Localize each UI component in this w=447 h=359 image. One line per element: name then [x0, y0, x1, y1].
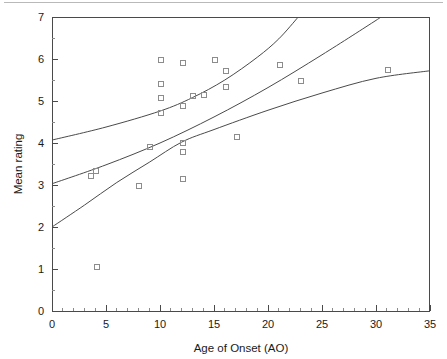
x-tick-label: 5: [103, 318, 109, 330]
data-points: [88, 57, 390, 269]
y-tick-label: 4: [38, 137, 44, 149]
data-point-marker: [385, 67, 390, 72]
x-axis-title: Age of Onset (AO): [194, 342, 289, 354]
data-point-marker: [180, 176, 185, 181]
data-point-marker: [212, 57, 217, 62]
y-tick-label: 7: [38, 11, 44, 23]
data-point-marker: [158, 95, 163, 100]
x-tick-label: 35: [424, 318, 436, 330]
y-tick-label: 2: [38, 221, 44, 233]
lower-confidence-band: [52, 71, 430, 227]
y-tick-label: 6: [38, 53, 44, 65]
x-tick-label: 30: [370, 318, 382, 330]
data-point-marker: [223, 84, 228, 89]
data-point-marker: [88, 173, 93, 178]
chart-canvas: 05101520253035 01234567 Age of Onset (AO…: [0, 0, 447, 359]
data-point-marker: [298, 78, 303, 83]
data-point-marker: [158, 81, 163, 86]
y-axis-title: Mean rating: [12, 134, 24, 195]
data-point-marker: [180, 60, 185, 65]
fit-curves: [52, 17, 430, 227]
data-point-marker: [94, 264, 99, 269]
y-tick-label: 5: [38, 95, 44, 107]
y-tick-label: 0: [38, 305, 44, 317]
y-tick-label: 3: [38, 179, 44, 191]
y-tick-label: 1: [38, 263, 44, 275]
x-tick-label: 10: [154, 318, 166, 330]
upper-confidence-band: [52, 17, 298, 140]
y-tick-labels: 01234567: [38, 11, 44, 317]
x-tick-label: 15: [208, 318, 220, 330]
data-point-marker: [223, 68, 228, 73]
regression-line: [52, 17, 382, 184]
data-point-marker: [234, 134, 239, 139]
data-point-marker: [136, 183, 141, 188]
scatter-plot-figure: 05101520253035 01234567 Age of Onset (AO…: [0, 0, 447, 359]
x-tick-label: 20: [262, 318, 274, 330]
x-tick-label: 0: [49, 318, 55, 330]
axis-spines: [53, 17, 431, 312]
data-point-marker: [158, 57, 163, 62]
data-point-marker: [180, 103, 185, 108]
data-point-marker: [180, 149, 185, 154]
x-tick-label: 25: [316, 318, 328, 330]
x-tick-labels: 05101520253035: [49, 318, 436, 330]
data-point-marker: [277, 62, 282, 67]
